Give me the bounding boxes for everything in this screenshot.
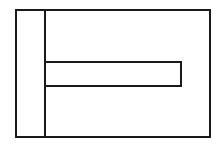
diagram-canvas — [0, 0, 223, 146]
inner-horizontal-bar — [45, 62, 181, 86]
